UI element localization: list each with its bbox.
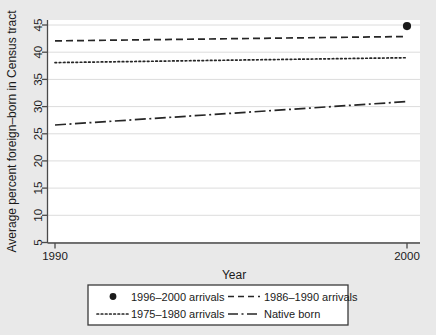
x-tick-label-1990: 1990 — [42, 250, 68, 262]
y-tick-label-25: 25 — [32, 127, 44, 140]
y-tick-label-20: 20 — [32, 155, 44, 168]
y-axis-tick-labels: 5 10 15 20 25 30 35 40 45 — [32, 19, 44, 246]
y-tick-label-45: 45 — [32, 19, 44, 32]
legend-label-1996-2000: 1996–2000 arrivals — [131, 291, 225, 303]
x-tick-label-2000: 2000 — [394, 250, 420, 262]
y-tick-label-5: 5 — [32, 239, 44, 245]
chart-svg: 5 10 15 20 25 30 35 40 45 1990 2000 Aver… — [0, 0, 436, 335]
y-tick-label-30: 30 — [32, 100, 44, 113]
figure-container: 5 10 15 20 25 30 35 40 45 1990 2000 Aver… — [0, 0, 436, 335]
legend-label-1975-1980: 1975–1980 arrivals — [131, 308, 225, 320]
y-axis-title: Average percent foreign–born in Census t… — [5, 10, 19, 253]
y-tick-label-10: 10 — [32, 209, 44, 222]
legend-label-1986-1990: 1986–1990 arrivals — [264, 291, 358, 303]
y-tick-label-40: 40 — [32, 46, 44, 59]
y-tick-label-15: 15 — [32, 182, 44, 195]
legend-dot-marker-icon — [110, 293, 117, 300]
x-axis-title: Year — [222, 268, 246, 282]
series-marker-1996-2000 — [403, 22, 411, 30]
legend: 1996–2000 arrivals 1975–1980 arrivals 19… — [88, 285, 358, 325]
y-tick-label-35: 35 — [32, 73, 44, 86]
legend-label-native-born: Native born — [264, 308, 320, 320]
plot-area-background — [48, 20, 420, 243]
